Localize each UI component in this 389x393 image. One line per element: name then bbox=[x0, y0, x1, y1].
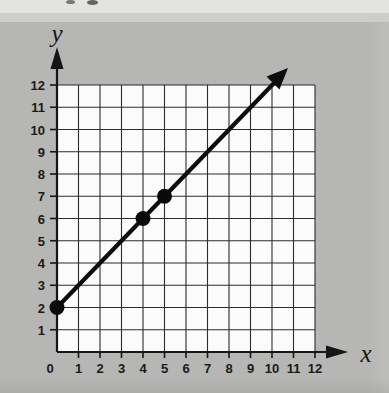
coordinate-plane: 12 11 10 9 8 7 6 5 4 3 2 1 0 1 2 3 4 5 6… bbox=[0, 0, 389, 393]
data-point-marker bbox=[136, 211, 151, 226]
y-tick-label: 7 bbox=[38, 189, 45, 204]
y-tick-label: 5 bbox=[38, 234, 45, 249]
data-point-marker bbox=[157, 189, 172, 204]
x-tick-label: 7 bbox=[204, 361, 211, 376]
x-tick-label: 2 bbox=[96, 361, 103, 376]
y-axis-label: y bbox=[48, 20, 63, 47]
y-tick-label: 9 bbox=[38, 145, 45, 160]
y-tick-label: 3 bbox=[38, 278, 45, 293]
x-tick-label: 10 bbox=[265, 361, 279, 376]
scanned-graph-figure: 12 11 10 9 8 7 6 5 4 3 2 1 0 1 2 3 4 5 6… bbox=[0, 0, 389, 393]
x-tick-label: 11 bbox=[287, 361, 301, 376]
y-tick-label: 10 bbox=[31, 123, 45, 138]
x-tick-label: 4 bbox=[139, 361, 147, 376]
x-tick-label: 12 bbox=[308, 361, 322, 376]
y-axis-arrowhead bbox=[51, 47, 64, 69]
x-axis-arrowhead bbox=[326, 346, 348, 359]
y-tick-label: 2 bbox=[38, 301, 45, 316]
y-tick-label: 8 bbox=[38, 167, 45, 182]
x-tick-label: 6 bbox=[182, 361, 189, 376]
x-tick-label: 8 bbox=[225, 361, 232, 376]
y-tick-label: 12 bbox=[31, 78, 45, 93]
x-tick-label: 5 bbox=[161, 361, 168, 376]
y-tick-label: 4 bbox=[38, 256, 46, 271]
x-axis-tick-labels: 0 1 2 3 4 5 6 7 8 9 10 11 12 bbox=[46, 361, 322, 376]
x-tick-label: 9 bbox=[247, 361, 254, 376]
x-tick-label: 3 bbox=[118, 361, 125, 376]
data-point-marker bbox=[50, 300, 65, 315]
y-axis-tick-labels: 12 11 10 9 8 7 6 5 4 3 2 1 bbox=[31, 78, 46, 338]
y-tick-label: 6 bbox=[38, 212, 45, 227]
x-axis-label: x bbox=[359, 340, 371, 367]
x-tick-label: 0 bbox=[46, 361, 53, 376]
x-tick-label: 1 bbox=[75, 361, 82, 376]
y-tick-label: 1 bbox=[38, 323, 45, 338]
y-tick-label: 11 bbox=[31, 100, 45, 115]
